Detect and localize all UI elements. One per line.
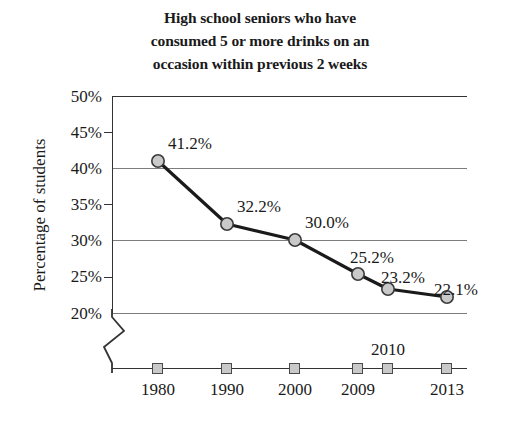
- gridline-50: [112, 96, 467, 97]
- y-tick-label-45: 45%: [38, 124, 102, 141]
- x-axis-marker-1990: [221, 363, 232, 374]
- data-label-1980: 41.2%: [168, 135, 212, 152]
- data-label-2010: 23.2%: [381, 269, 425, 286]
- x-tick-label-2009: 2009: [323, 381, 393, 398]
- x-tick-label-2013: 2013: [412, 381, 482, 398]
- chart-title-line-2: consumed 5 or more drinks on an: [60, 29, 460, 52]
- x-axis-marker-2009: [352, 363, 363, 374]
- y-tick-mark-35: [104, 204, 113, 205]
- x-axis-marker-2000: [289, 363, 300, 374]
- x-tick-label-2000: 2000: [260, 381, 330, 398]
- y-tick-label-25: 25%: [38, 268, 102, 285]
- x-tick-label-2010: 2010: [353, 341, 423, 358]
- y-tick-mark-25: [104, 277, 113, 278]
- x-axis-marker-1980: [152, 363, 163, 374]
- y-tick-label-20: 20%: [38, 305, 102, 322]
- y-tick-label-35: 35%: [38, 196, 102, 213]
- x-tick-label-1990: 1990: [192, 381, 262, 398]
- data-label-2013: 22.1%: [434, 281, 478, 298]
- x-tick-label-1980: 1980: [123, 381, 193, 398]
- data-label-2009: 25.2%: [350, 249, 394, 266]
- data-label-1990: 32.2%: [237, 198, 281, 215]
- chart-title-line-1: High school seniors who have: [60, 6, 460, 29]
- chart-figure: High school seniors who have consumed 5 …: [0, 0, 519, 436]
- gridline-40: [112, 168, 467, 169]
- gridline-20: [112, 313, 467, 314]
- y-tick-label-50: 50%: [38, 88, 102, 105]
- data-label-2000: 30.0%: [305, 214, 349, 231]
- chart-title: High school seniors who have consumed 5 …: [60, 6, 460, 75]
- y-tick-label-40: 40%: [38, 160, 102, 177]
- y-tick-label-30: 30%: [38, 232, 102, 249]
- y-tick-mark-45: [104, 132, 113, 133]
- x-axis-marker-2013: [441, 363, 452, 374]
- chart-title-line-3: occasion within previous 2 weeks: [60, 52, 460, 75]
- axis-break-icon: [100, 309, 130, 373]
- gridline-30: [112, 240, 467, 241]
- x-axis-marker-2010: [382, 363, 393, 374]
